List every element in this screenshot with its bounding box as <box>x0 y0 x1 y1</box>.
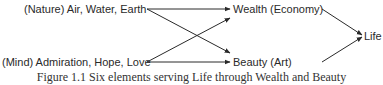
arrow-beauty-life <box>322 37 362 62</box>
arrow-mind-wealth <box>147 18 230 62</box>
arrow-nature-beauty <box>147 9 230 53</box>
arrow-wealth-life <box>322 9 362 35</box>
figure-caption: Figure 1.1 Six elements serving Life thr… <box>0 70 383 84</box>
